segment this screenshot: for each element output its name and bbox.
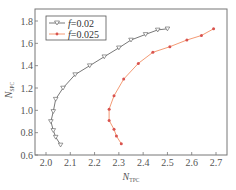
star-marker-icon <box>108 119 111 122</box>
y-tick-label: 1.2 <box>21 83 34 94</box>
star-marker-icon <box>115 135 118 138</box>
star-marker-icon <box>113 128 116 131</box>
svg-text:f=0.025: f=0.025 <box>68 29 99 40</box>
star-marker-icon <box>185 38 188 41</box>
x-tick-label: 2.5 <box>161 157 174 168</box>
x-axis-title: NTPC <box>122 171 140 183</box>
y-tick-label: 1.8 <box>21 16 34 27</box>
y-tick-label: 1.4 <box>21 60 34 71</box>
x-tick-label: 2.4 <box>137 157 150 168</box>
star-marker-icon <box>137 62 140 65</box>
y-tick-label: 1.6 <box>21 38 34 49</box>
x-tick-label: 2.2 <box>88 157 101 168</box>
x-tick-label: 2.6 <box>185 157 198 168</box>
y-axis-title: NSPC <box>3 81 15 99</box>
x-tick-label: 2.1 <box>64 157 77 168</box>
star-marker-icon <box>108 108 111 111</box>
star-marker-icon <box>168 45 171 48</box>
star-marker-icon <box>56 33 59 36</box>
star-marker-icon <box>200 34 203 37</box>
y-tick-label: 0.8 <box>21 127 34 138</box>
star-marker-icon <box>122 78 125 81</box>
svg-text:f=0.02: f=0.02 <box>68 18 94 29</box>
y-tick-label: 0.6 <box>21 150 34 161</box>
y-tick-label: 1.0 <box>21 105 34 116</box>
star-marker-icon <box>151 51 154 54</box>
star-marker-icon <box>120 142 123 145</box>
x-tick-label: 2.7 <box>210 157 223 168</box>
legend: f=0.02 f=0.025 <box>46 16 106 40</box>
x-tick-label: 2.3 <box>113 157 126 168</box>
x-tick-label: 2.0 <box>40 157 53 168</box>
star-marker-icon <box>113 94 116 97</box>
chart: 2.02.12.22.32.42.52.62.7 0.60.81.01.21.4… <box>0 0 236 190</box>
star-marker-icon <box>212 27 215 30</box>
